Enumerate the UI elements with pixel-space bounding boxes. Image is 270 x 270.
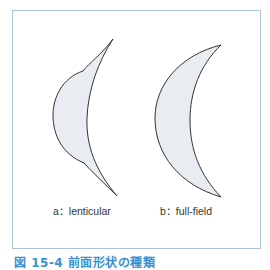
full-field-label: b：full-field bbox=[160, 203, 212, 218]
lenticular-lens-shape bbox=[53, 39, 117, 196]
figure-caption: 図 15-4 前面形状の種類 bbox=[14, 253, 155, 270]
full-field-lens-shape bbox=[155, 45, 221, 197]
lenticular-label: a：lenticular bbox=[53, 203, 111, 218]
